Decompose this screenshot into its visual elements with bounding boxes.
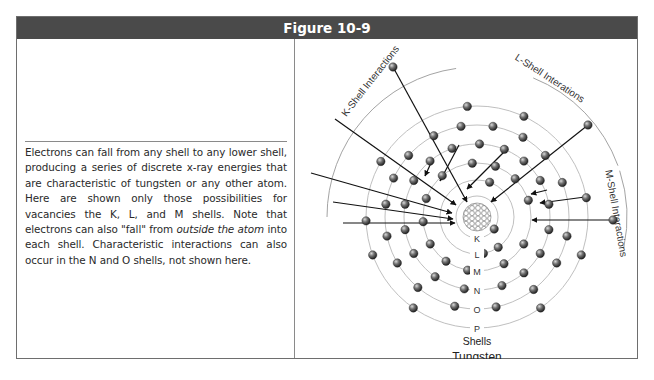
electron: [536, 249, 544, 257]
electron: [410, 249, 418, 257]
transition-arrow: [491, 125, 588, 202]
electron: [422, 194, 430, 202]
shells-label: Shells: [463, 335, 492, 347]
electron: [491, 162, 499, 170]
electron: [520, 157, 528, 165]
electron: [401, 200, 409, 208]
electron: [552, 259, 560, 267]
figure-frame: Figure 10-9 Electrons can fall from any …: [16, 16, 638, 359]
electron: [414, 283, 422, 291]
electron: [393, 259, 401, 267]
transition-arrow: [335, 119, 456, 205]
electron: [451, 302, 459, 310]
electron: [377, 157, 385, 165]
shell-label-m: M: [473, 267, 481, 277]
shell-labels: KLMNOP: [470, 232, 484, 334]
electron: [410, 176, 418, 184]
electron: [492, 303, 500, 311]
shell-label-l: L: [474, 250, 479, 260]
electron: [494, 243, 502, 251]
figure-title: Figure 10-9: [17, 17, 637, 39]
electron: [545, 200, 553, 208]
electron: [438, 171, 446, 179]
caption-text-1: Electrons can fall from any shell to any…: [25, 146, 287, 235]
electron: [389, 174, 397, 182]
electron: [383, 232, 391, 240]
electron: [498, 281, 506, 289]
transition-arrow: [333, 202, 453, 219]
electron: [582, 194, 590, 202]
electron: [468, 159, 476, 167]
outside-electron: [609, 216, 617, 224]
electron: [563, 232, 571, 240]
caption-rule: [25, 141, 287, 142]
electron: [520, 240, 528, 248]
outside-electron: [584, 121, 592, 129]
electron: [558, 178, 566, 186]
electron: [520, 112, 528, 120]
electron: [485, 178, 493, 186]
electron: [457, 122, 465, 130]
electron: [490, 225, 498, 233]
k-shell-interactions-label: K-Shell Interactions: [339, 43, 401, 118]
k-shell-bracket: [327, 68, 456, 217]
electron: [524, 196, 532, 204]
electron: [460, 285, 468, 293]
figure-caption: Electrons can fall from any shell to any…: [25, 145, 287, 268]
electron: [426, 240, 434, 248]
l-shell-interactions-label: L-Shell Interations: [513, 52, 587, 105]
electron: [536, 304, 544, 312]
electron: [577, 251, 585, 259]
shell-label-n: N: [474, 286, 481, 296]
nucleus: [463, 203, 491, 231]
m-shell-interactions-label: M-Shell Interactions: [603, 169, 629, 258]
electron: [463, 102, 471, 110]
outside-electron: [389, 63, 397, 71]
electron: [382, 200, 390, 208]
transition-arrow: [531, 190, 547, 194]
element-name: Tungsten: [452, 350, 502, 359]
electron: [430, 132, 438, 140]
electron: [489, 122, 497, 130]
electron: [500, 145, 508, 153]
shell-label-p: P: [474, 324, 480, 334]
electron: [545, 225, 553, 233]
electron: [431, 273, 439, 281]
electron: [500, 260, 508, 268]
electron: [401, 225, 409, 233]
electron: [409, 304, 417, 312]
shell-label-k: K: [474, 234, 480, 244]
shell-label-o: O: [473, 305, 480, 315]
electron: [448, 144, 456, 152]
electron: [536, 176, 544, 184]
electron: [426, 157, 434, 165]
electron: [419, 218, 427, 226]
electron: [511, 175, 519, 183]
electron: [541, 151, 549, 159]
electron: [362, 217, 370, 225]
electron: [520, 269, 528, 277]
electron: [475, 140, 483, 148]
tungsten-atom-diagram: K-Shell InteractionsL-Shell InterationsM…: [295, 39, 637, 359]
transition-arrow: [311, 173, 452, 213]
electron: [368, 251, 376, 259]
electron: [519, 133, 527, 141]
caption-emphasis: outside the atom: [176, 223, 264, 235]
electron: [404, 151, 412, 159]
electron: [442, 257, 450, 265]
electron: [529, 285, 537, 293]
